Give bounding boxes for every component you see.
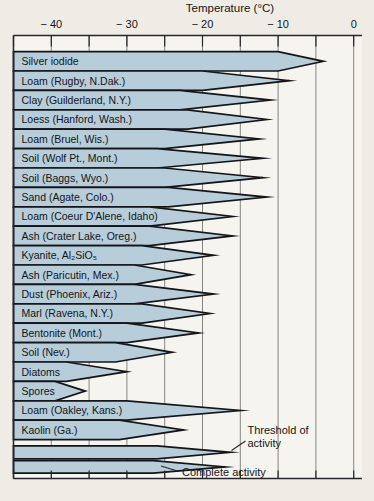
annotation-complete: Complete activity bbox=[182, 466, 266, 478]
axis-tick-label: − 20 bbox=[192, 18, 214, 30]
figure-page: Silver iodideLoam (Rugby, N.Dak.)Clay (G… bbox=[0, 0, 374, 501]
annotation-threshold-line2: activity bbox=[248, 437, 282, 449]
material-label: Sand (Agate, Colo.) bbox=[22, 191, 114, 203]
material-label: Kaolin (Ga.) bbox=[22, 424, 78, 436]
material-label: Clay (Guilderland, N.Y.) bbox=[22, 94, 132, 106]
axis-tick-label: − 30 bbox=[116, 18, 138, 30]
material-label: Loam (Bruel, Wis.) bbox=[22, 133, 109, 145]
axis-tick-label: − 10 bbox=[267, 18, 289, 30]
material-label: Loam (Coeur D'Alene, Idaho) bbox=[22, 210, 158, 222]
material-label: Soil (Wolf Pt., Mont.) bbox=[22, 152, 118, 164]
material-label: Soil (Baggs, Wyo.) bbox=[22, 172, 109, 184]
material-label: Diatoms bbox=[22, 366, 61, 378]
material-label: Silver iodide bbox=[22, 55, 79, 67]
material-label: Loam (Rugby, N.Dak.) bbox=[22, 75, 126, 87]
material-label: Bentonite (Mont.) bbox=[22, 327, 103, 339]
material-label: Kyanite, Al₂SiO₅ bbox=[22, 249, 97, 261]
material-label: Dust (Phoenix, Ariz.) bbox=[22, 288, 118, 300]
axis-title: Temperature (°C) bbox=[186, 2, 274, 14]
axis-tick-label: − 40 bbox=[40, 18, 62, 30]
material-label: Spores bbox=[22, 385, 55, 397]
axis-tick-label: 0 bbox=[351, 18, 357, 30]
material-label: Loam (Oakley, Kans.) bbox=[22, 404, 123, 416]
material-label: Soil (Nev.) bbox=[22, 346, 70, 358]
material-label: Ash (Paricutin, Mex.) bbox=[22, 269, 119, 281]
material-label: Marl (Ravena, N.Y.) bbox=[22, 307, 113, 319]
material-label: Loess (Hanford, Wash.) bbox=[22, 113, 133, 125]
annotation-threshold-line1: Threshold of bbox=[248, 424, 310, 436]
material-label: Ash (Crater Lake, Oreg.) bbox=[22, 230, 137, 242]
ice-nuclei-temperature-chart: Silver iodideLoam (Rugby, N.Dak.)Clay (G… bbox=[0, 0, 374, 501]
